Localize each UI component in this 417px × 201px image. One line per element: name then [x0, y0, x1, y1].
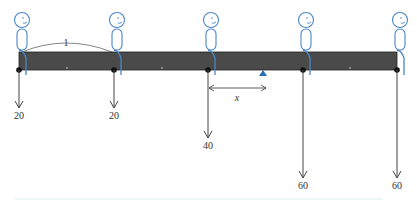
load-label-1: 20	[14, 110, 24, 121]
load-arrows	[15, 67, 401, 178]
load-arrow-4	[299, 67, 307, 178]
distance-label: x	[235, 92, 239, 103]
load-arrow-3	[204, 67, 212, 138]
load-label-5: 60	[392, 180, 402, 191]
spacing-label: 1	[64, 37, 69, 48]
beam-diagram: 1 x 20 20 40 60 60	[0, 0, 417, 201]
load-arrow-5	[393, 67, 401, 178]
load-arrow-1	[15, 67, 23, 108]
load-arrow-2	[110, 67, 118, 108]
distance-dimension	[209, 85, 266, 91]
load-label-3: 40	[203, 140, 213, 151]
fulcrum-triangle-icon	[259, 70, 267, 76]
diagram-canvas	[0, 0, 417, 201]
load-label-2: 20	[109, 110, 119, 121]
load-label-4: 60	[298, 180, 308, 191]
